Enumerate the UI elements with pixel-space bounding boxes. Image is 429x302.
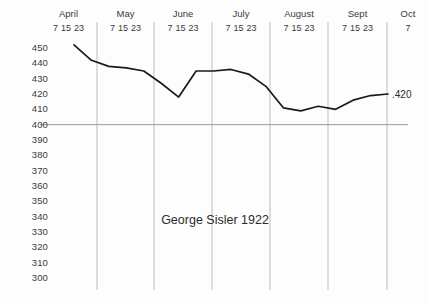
y-axis-tick-label: 450 <box>18 42 48 53</box>
x-axis-day-ticks: 71523 <box>340 23 374 33</box>
x-axis-day-tick-label: 7 <box>282 23 290 33</box>
data-series-line <box>74 45 388 111</box>
y-axis-tick-label: 360 <box>18 180 48 191</box>
y-axis-tick-label: 400 <box>18 119 48 130</box>
x-axis-day-tick-label: 15 <box>116 23 129 33</box>
y-axis-tick-label: 340 <box>18 211 48 222</box>
chart-plot-area <box>0 0 429 302</box>
x-axis-day-tick-label: 23 <box>362 23 375 33</box>
x-axis-day-tick-label: 23 <box>245 23 258 33</box>
x-axis-day-ticks: 71523 <box>282 23 316 33</box>
x-axis-day-tick-label: 7 <box>108 23 116 33</box>
y-axis-tick-label: 300 <box>18 272 48 283</box>
y-axis-tick-label: 390 <box>18 134 48 145</box>
x-axis-day-tick-label: 7 <box>404 23 412 33</box>
y-axis-tick-label: 420 <box>18 88 48 99</box>
x-axis-day-tick-label: 23 <box>130 23 143 33</box>
x-axis-day-tick-label: 15 <box>290 23 303 33</box>
batting-average-chart: 4504404304204104003903803703603503403303… <box>0 0 429 302</box>
x-axis-month-label: Oct <box>401 8 416 19</box>
x-axis-day-tick-label: 7 <box>340 23 348 33</box>
x-axis-day-tick-label: 23 <box>303 23 316 33</box>
x-axis-day-ticks: 71523 <box>166 23 200 33</box>
x-axis-day-tick-label: 7 <box>51 23 59 33</box>
chart-title: George Sisler 1922 <box>161 213 269 227</box>
endpoint-value-annotation: .420 <box>392 89 411 100</box>
y-axis-tick-label: 410 <box>18 103 48 114</box>
y-axis-tick-label: 430 <box>18 73 48 84</box>
y-axis-tick-label: 320 <box>18 241 48 252</box>
y-axis-tick-label: 330 <box>18 226 48 237</box>
x-axis-day-tick-label: 7 <box>166 23 174 33</box>
y-axis-tick-label: 380 <box>18 149 48 160</box>
x-axis-day-ticks: 7 <box>404 23 412 33</box>
x-axis-month-label: June <box>173 8 194 19</box>
x-axis-month-label: May <box>117 8 135 19</box>
x-axis-month-label: August <box>284 8 314 19</box>
y-axis-tick-label: 370 <box>18 165 48 176</box>
y-axis-tick-label: 440 <box>18 57 48 68</box>
x-axis-month-label: Sept <box>348 8 368 19</box>
x-axis-day-ticks: 71523 <box>224 23 258 33</box>
y-axis-tick-label: 310 <box>18 257 48 268</box>
y-axis-tick-label: 350 <box>18 195 48 206</box>
x-axis-month-label: July <box>233 8 250 19</box>
x-axis-day-tick-label: 23 <box>73 23 86 33</box>
x-axis-month-label: April <box>59 8 78 19</box>
month-divider-gridlines <box>97 22 387 290</box>
x-axis-day-tick-label: 15 <box>59 23 72 33</box>
x-axis-day-tick-label: 15 <box>348 23 361 33</box>
x-axis-day-ticks: 71523 <box>51 23 85 33</box>
x-axis-day-ticks: 71523 <box>108 23 142 33</box>
x-axis-day-tick-label: 23 <box>187 23 200 33</box>
x-axis-day-tick-label: 7 <box>224 23 232 33</box>
x-axis-day-tick-label: 15 <box>174 23 187 33</box>
x-axis-day-tick-label: 15 <box>232 23 245 33</box>
